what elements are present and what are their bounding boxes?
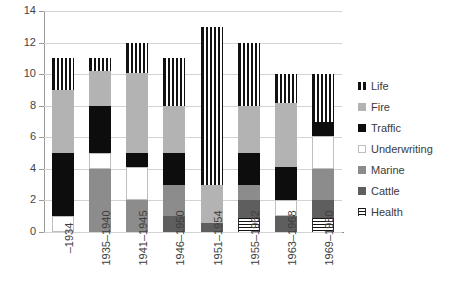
legend-swatch-life-icon: [358, 82, 366, 90]
bar-segment-life[interactable]: [89, 58, 111, 71]
x-axis-tick-label: 1935–1940: [89, 236, 111, 306]
x-axis-label-text: –1934: [63, 223, 75, 254]
bar-segment-underwriting[interactable]: [89, 153, 111, 169]
y-axis-tick-label: 14: [2, 5, 36, 16]
legend-item-cattle[interactable]: Cattle: [358, 180, 453, 201]
y-axis-labels: 02468101214: [0, 0, 36, 306]
x-axis-label-text: 1955–1962: [249, 210, 261, 265]
legend-item-underwriting[interactable]: Underwriting: [358, 138, 453, 159]
bar-segment-marine[interactable]: [312, 169, 334, 201]
x-axis-tick-label: 1963–1968: [275, 236, 297, 306]
legend-label: Fire: [371, 101, 390, 113]
bar[interactable]: [201, 11, 223, 232]
legend-item-traffic[interactable]: Traffic: [358, 117, 453, 138]
bar-segment-fire[interactable]: [52, 90, 74, 153]
bar-segment-life[interactable]: [275, 74, 297, 102]
x-axis-label-text: 1941–1945: [137, 210, 149, 265]
y-axis-tick-label: 4: [2, 163, 36, 174]
legend-swatch-health-icon: [358, 208, 366, 216]
bar-segment-fire[interactable]: [275, 103, 297, 168]
x-axis-tick-label: 1969–1980: [312, 236, 334, 306]
bar-segment-traffic[interactable]: [312, 122, 334, 136]
legend-label: Marine: [371, 164, 405, 176]
bar[interactable]: [126, 11, 148, 232]
legend-label: Cattle: [371, 185, 400, 197]
bar-segment-traffic[interactable]: [275, 167, 297, 200]
x-axis-tick-label: 1951–1954: [201, 236, 223, 306]
bar-segment-traffic[interactable]: [52, 153, 74, 216]
legend-swatch-fire-icon: [358, 103, 366, 111]
legend-swatch-cattle-icon: [358, 187, 366, 195]
legend-label: Health: [371, 206, 403, 218]
legend-swatch-traffic-icon: [358, 124, 366, 132]
bar-segment-underwriting[interactable]: [312, 136, 334, 169]
bar[interactable]: [163, 11, 185, 232]
x-axis-label-text: 1935–1940: [100, 210, 112, 265]
x-axis-tick-label: 1946–1950: [163, 236, 185, 306]
bar-segment-life[interactable]: [126, 43, 148, 73]
bar-segment-underwriting[interactable]: [126, 167, 148, 200]
x-axis-label-text: 1969–1980: [323, 210, 335, 265]
legend-item-life[interactable]: Life: [358, 75, 453, 96]
legend-swatch-marine-icon: [358, 166, 366, 174]
legend-label: Underwriting: [371, 143, 433, 155]
bar-segment-fire[interactable]: [126, 73, 148, 154]
x-axis-label-text: 1951–1954: [212, 210, 224, 265]
bar-segment-traffic[interactable]: [238, 153, 260, 185]
bar-segment-life[interactable]: [312, 74, 334, 121]
chart-legend: LifeFireTrafficUnderwritingMarineCattleH…: [358, 75, 453, 222]
bar-segment-marine[interactable]: [238, 185, 260, 201]
x-axis-tick-label: 1941–1945: [126, 236, 148, 306]
legend-label: Traffic: [371, 122, 401, 134]
stacked-bar-chart: 02468101214 –19341935–19401941–19451946–…: [0, 0, 453, 306]
bar-segment-traffic[interactable]: [126, 153, 148, 167]
bar[interactable]: [238, 11, 260, 232]
legend-item-marine[interactable]: Marine: [358, 159, 453, 180]
bar-segment-life[interactable]: [238, 43, 260, 106]
bar-segment-traffic[interactable]: [89, 106, 111, 153]
y-axis-tick-label: 0: [2, 226, 36, 237]
y-axis-tick-label: 12: [2, 37, 36, 48]
bar[interactable]: [275, 11, 297, 232]
bar-segment-fire[interactable]: [163, 106, 185, 153]
y-axis-tick-label: 8: [2, 100, 36, 111]
y-axis-tick-label: 10: [2, 68, 36, 79]
plot-area: [44, 11, 342, 232]
bar[interactable]: [89, 11, 111, 232]
y-axis-tick-label: 2: [2, 194, 36, 205]
x-axis-tick-label: 1955–1962: [238, 236, 260, 306]
bar-segment-life[interactable]: [201, 27, 223, 185]
x-axis-label-text: 1946–1950: [174, 210, 186, 265]
bar-segment-fire[interactable]: [89, 71, 111, 106]
x-axis-tick-label: –1934: [52, 236, 74, 306]
bar-segment-fire[interactable]: [238, 106, 260, 153]
legend-label: Life: [371, 80, 389, 92]
bar-segment-life[interactable]: [52, 58, 74, 90]
bar-segment-life[interactable]: [163, 58, 185, 105]
bar-segment-traffic[interactable]: [163, 153, 185, 185]
legend-swatch-underwriting-icon: [358, 145, 366, 153]
x-axis-label-text: 1963–1968: [286, 210, 298, 265]
legend-item-health[interactable]: Health: [358, 201, 453, 222]
bar[interactable]: [52, 11, 74, 232]
legend-item-fire[interactable]: Fire: [358, 96, 453, 117]
bar[interactable]: [312, 11, 334, 232]
y-axis-tick-label: 6: [2, 131, 36, 142]
